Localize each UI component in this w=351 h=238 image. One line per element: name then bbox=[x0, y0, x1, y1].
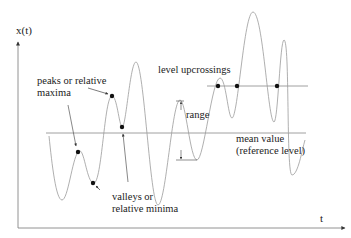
signal-curve bbox=[49, 12, 305, 205]
upcrossing-point-1 bbox=[216, 84, 220, 88]
peaks-label-line2: maxima bbox=[37, 87, 71, 98]
mean-value-label-line2: (reference level) bbox=[236, 145, 306, 157]
peaks-pointer-arrow-2 bbox=[68, 105, 76, 146]
upcrossing-point-2 bbox=[235, 84, 239, 88]
y-axis-label: x(t) bbox=[16, 24, 32, 37]
signal-diagram: x(t) t peaks or relative maxima valleys … bbox=[0, 0, 351, 238]
valleys-pointer-arrow-2 bbox=[123, 134, 128, 182]
relative-minimum-point bbox=[91, 181, 95, 185]
peaks-label-line1: peaks or relative bbox=[37, 75, 107, 86]
valleys-label-line1: valleys or bbox=[112, 191, 154, 202]
mean-value-label-line1: mean value bbox=[236, 133, 284, 144]
upcrossings-label: level upcrossings bbox=[158, 64, 231, 75]
peaks-pointer-arrow bbox=[88, 88, 108, 94]
range-label: range bbox=[186, 109, 210, 120]
x-axis-label: t bbox=[320, 212, 323, 224]
valleys-pointer-arrow bbox=[96, 186, 100, 190]
valley-point bbox=[120, 125, 124, 129]
valleys-label-line2: relative minima bbox=[112, 203, 179, 214]
relative-maximum-point bbox=[76, 150, 80, 154]
peak-point bbox=[110, 94, 114, 98]
upcrossing-point-3 bbox=[275, 84, 279, 88]
